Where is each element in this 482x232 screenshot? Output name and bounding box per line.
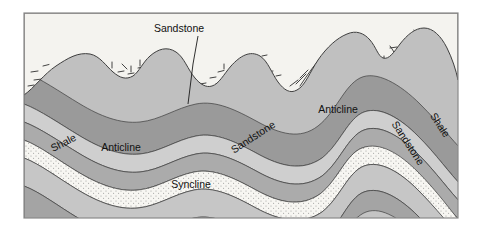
label-syncline: Syncline — [171, 178, 211, 190]
label-anticline-left: Anticline — [101, 141, 141, 153]
label-anticline-right: Anticline — [318, 103, 358, 115]
label-sandstone-top: Sandstone — [154, 22, 204, 34]
cross-section-svg: Sandstone Shale Anticline Sandstone Anti… — [0, 0, 482, 232]
geologic-cross-section-figure: Sandstone Shale Anticline Sandstone Anti… — [0, 0, 482, 232]
